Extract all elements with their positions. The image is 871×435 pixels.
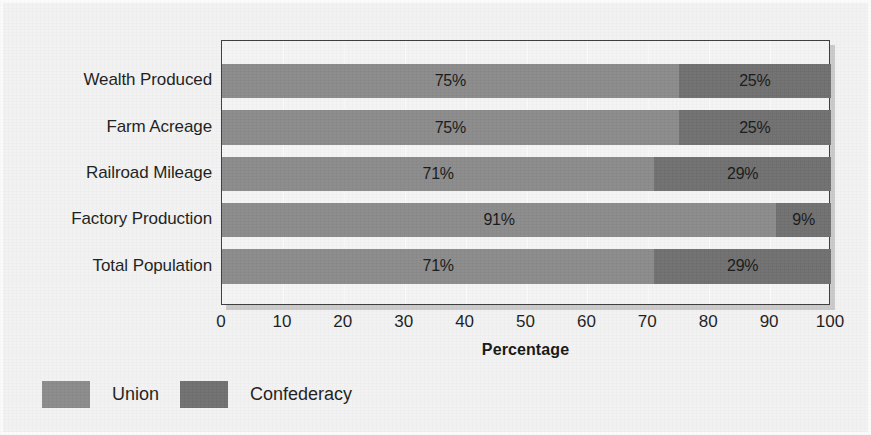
legend-item-union[interactable]: Union [42,381,159,408]
y-axis-label: Farm Acreage [0,117,212,137]
bar-segment-union: 75% [222,110,679,144]
x-axis-tick: 100 [816,312,844,332]
x-axis-tick: 60 [577,312,596,332]
bar-segment-confederacy: 25% [679,64,831,98]
y-axis-label: Factory Production [0,209,212,229]
plot-inner: 75%25%75%25%71%29%91%9%71%29% [222,41,829,304]
bar-value-label: 91% [483,211,514,229]
bar-value-label: 9% [792,211,815,229]
legend-item-confederacy[interactable]: Confederacy [180,381,352,408]
x-axis-tick: 80 [699,312,718,332]
y-axis-label: Wealth Produced [0,70,212,90]
bar-value-label: 71% [422,165,453,183]
legend-label: Confederacy [250,384,352,405]
x-axis-tick: 90 [760,312,779,332]
x-axis-tick: 20 [333,312,352,332]
bar-value-label: 75% [435,119,466,137]
y-axis-label: Total Population [0,256,212,276]
bar-row: 75%25% [222,64,829,98]
bar-segment-union: 75% [222,64,679,98]
bar-value-label: 75% [435,72,466,90]
legend-label: Union [112,384,159,405]
bar-segment-union: 71% [222,249,654,283]
x-axis-tick: 0 [216,312,225,332]
plot-area: 75%25%75%25%71%29%91%9%71%29% [221,40,830,305]
chart-figure: Wealth ProducedFarm AcreageRailroad Mile… [0,0,871,435]
x-axis-title: Percentage [221,341,830,359]
bar-value-label: 29% [727,165,758,183]
legend-swatch-union [42,381,90,408]
y-axis-category-labels: Wealth ProducedFarm AcreageRailroad Mile… [0,40,212,305]
x-axis-tick: 30 [394,312,413,332]
bar-segment-confederacy: 9% [776,203,831,237]
x-axis-tick: 50 [516,312,535,332]
y-axis-label: Railroad Mileage [0,163,212,183]
x-axis-tick: 70 [638,312,657,332]
bar-value-label: 25% [739,119,770,137]
bar-segment-confederacy: 29% [654,249,831,283]
bar-value-label: 25% [739,72,770,90]
bar-row: 71%29% [222,157,829,191]
bar-value-label: 71% [422,257,453,275]
bar-row: 91%9% [222,203,829,237]
x-axis-ticks: 0102030405060708090100 [221,312,830,336]
bar-value-label: 29% [727,257,758,275]
x-axis-tick: 10 [272,312,291,332]
bar-row: 71%29% [222,249,829,283]
bar-segment-confederacy: 29% [654,157,831,191]
bar-row: 75%25% [222,110,829,144]
legend-swatch-confederacy [180,381,228,408]
x-axis-tick: 40 [455,312,474,332]
bar-segment-union: 71% [222,157,654,191]
bar-segment-union: 91% [222,203,776,237]
bar-segment-confederacy: 25% [679,110,831,144]
